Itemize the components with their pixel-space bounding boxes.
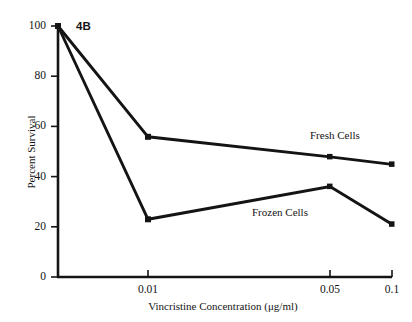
y-tick-label-100: 100 (16, 20, 46, 32)
x-axis-title: Vincristine Concentration (μg/ml) (148, 301, 297, 312)
y-tick-label-80: 80 (16, 70, 46, 82)
chart-canvas (0, 0, 412, 322)
series-line-frozen-cells (58, 26, 392, 224)
series-label-frozen-cells: Frozen Cells (252, 207, 308, 218)
x-tick-label-0-05: 0.05 (320, 284, 340, 296)
x-tick-label-0-01: 0.01 (138, 284, 158, 296)
figure-4b: 4B 0 20 40 60 80 100 0.01 0.05 0.1 Vincr… (0, 0, 412, 322)
series-line-fresh-cells (58, 26, 392, 164)
series-label-fresh-cells: Fresh Cells (310, 130, 360, 141)
y-tick-label-0: 0 (16, 271, 46, 283)
y-axis-title: Percent Survival (26, 115, 37, 188)
panel-label: 4B (76, 21, 91, 33)
x-tick-label-0-1: 0.1 (385, 284, 399, 296)
y-tick-label-20: 20 (16, 221, 46, 233)
